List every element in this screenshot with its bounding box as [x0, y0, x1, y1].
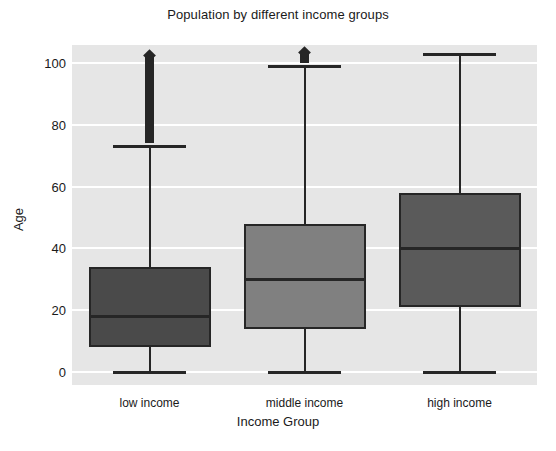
whisker-lower	[304, 329, 306, 372]
y-tick-label: 80	[6, 117, 66, 132]
whisker-cap-lower	[268, 371, 341, 374]
whisker-cap-lower	[113, 371, 186, 374]
whisker-cap-upper	[268, 65, 341, 68]
plot-area	[72, 45, 537, 385]
box-middle-income	[244, 224, 366, 329]
median-line	[399, 247, 521, 250]
whisker-upper	[149, 146, 151, 267]
x-axis-label: Income Group	[0, 414, 556, 429]
chart-title: Population by different income groups	[0, 7, 556, 22]
whisker-cap-lower	[423, 371, 496, 374]
y-tick-label: 100	[6, 56, 66, 71]
y-tick-label: 0	[6, 365, 66, 380]
whisker-upper	[459, 54, 461, 193]
chart-figure: Population by different income groups 02…	[0, 0, 556, 451]
whisker-cap-upper	[423, 53, 496, 56]
x-tick-label: high income	[427, 396, 492, 410]
x-tick-label: middle income	[266, 396, 343, 410]
y-axis-label: Age	[11, 180, 26, 260]
y-tick-label: 20	[6, 303, 66, 318]
x-tick-label: low income	[119, 396, 179, 410]
median-line	[89, 315, 211, 318]
y-axis: 020406080100 Age	[0, 0, 66, 451]
outlier-cluster	[145, 56, 154, 144]
whisker-lower	[459, 307, 461, 372]
whisker-cap-upper	[113, 145, 186, 148]
whisker-lower	[149, 347, 151, 372]
median-line	[244, 278, 366, 281]
whisker-upper	[304, 66, 306, 224]
box-low-income	[89, 267, 211, 347]
